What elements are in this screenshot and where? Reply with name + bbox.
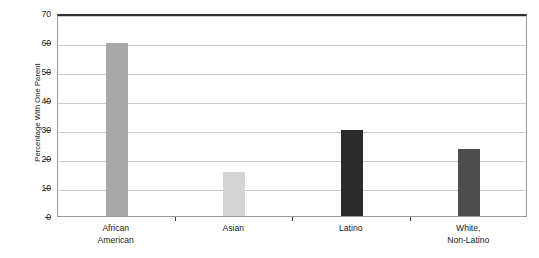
x-axis-label-line: Asian — [223, 223, 245, 233]
x-axis-label-line: White, — [456, 223, 480, 233]
y-tick-mark — [45, 188, 51, 189]
y-axis-tick-marks: 010203040506070 — [0, 14, 51, 217]
y-tick-mark — [45, 217, 51, 218]
x-axis-label-line: Latino — [339, 223, 362, 233]
y-tick-label: 70 — [7, 9, 51, 19]
plot-area — [57, 14, 527, 217]
x-axis-label-line: American — [56, 235, 176, 247]
y-tick-mark — [45, 101, 51, 102]
x-axis-category-labels: AfricanAmericanAsianLatinoWhite,Non-Lati… — [57, 223, 527, 253]
x-axis-label: Latino — [291, 223, 411, 235]
x-axis-label-line: African — [102, 223, 129, 233]
x-axis-label: AfricanAmerican — [56, 223, 176, 246]
y-tick-mark — [45, 43, 51, 44]
x-tick-mark — [410, 217, 411, 221]
bar — [223, 172, 245, 216]
x-axis-label-line: Non-Latino — [408, 235, 528, 247]
x-axis-tick-marks — [57, 217, 527, 222]
bar — [341, 130, 363, 216]
bar — [458, 149, 480, 216]
bars-layer — [58, 16, 526, 216]
bar-chart-figure: Percentage With One Parent 0102030405060… — [0, 0, 539, 258]
x-tick-mark — [175, 217, 176, 221]
y-tick-mark — [45, 72, 51, 73]
bar — [106, 43, 128, 216]
x-axis-label: Asian — [173, 223, 293, 235]
x-axis-label: White,Non-Latino — [408, 223, 528, 246]
y-tick-mark — [45, 130, 51, 131]
source-note — [8, 252, 528, 258]
y-tick-mark — [45, 159, 51, 160]
x-tick-mark — [292, 217, 293, 221]
